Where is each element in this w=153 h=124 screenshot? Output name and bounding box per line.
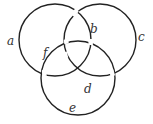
label-f: f xyxy=(42,46,50,60)
label-d: d xyxy=(84,82,92,96)
label-b: b xyxy=(90,22,98,36)
label-c: c xyxy=(138,30,145,44)
crossing-gaps xyxy=(44,10,113,76)
label-e: e xyxy=(69,101,76,115)
circle-e xyxy=(41,41,115,115)
circle-a xyxy=(19,4,91,76)
interlocking-circles-diagram: a b c d e f xyxy=(0,0,153,124)
label-a: a xyxy=(7,34,14,48)
